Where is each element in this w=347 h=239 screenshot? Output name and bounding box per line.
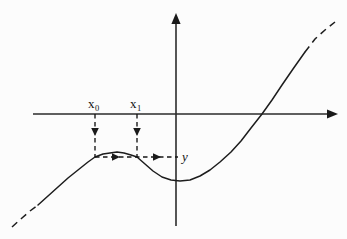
- diagram-svg: [0, 0, 347, 239]
- label-x0: x0: [88, 97, 99, 110]
- right-arrow-icon-2: [153, 153, 161, 161]
- x-axis: [33, 109, 338, 118]
- down-arrow-icon-x0: [91, 128, 99, 136]
- label-x0-base: x: [88, 96, 95, 111]
- label-x1-base: x: [130, 96, 137, 111]
- down-arrow-icon-x1: [133, 128, 141, 136]
- curve-extension-upper-right: [305, 22, 335, 52]
- label-x0-subscript: 0: [95, 103, 99, 113]
- curve-extension-lower-left: [12, 205, 38, 227]
- right-arrow-icon-1: [112, 153, 120, 161]
- cubic-curve: [38, 52, 305, 205]
- drop-line-x1: [133, 114, 141, 157]
- label-y: y: [182, 150, 188, 163]
- x-axis-arrow-icon: [327, 109, 338, 118]
- y-axis: [171, 13, 180, 226]
- y-axis-arrow-icon: [171, 13, 180, 24]
- drop-line-x0: [91, 114, 99, 157]
- label-x1: x1: [130, 97, 141, 110]
- label-x1-subscript: 1: [137, 103, 141, 113]
- figure-canvas: x0 x1 y: [0, 0, 347, 239]
